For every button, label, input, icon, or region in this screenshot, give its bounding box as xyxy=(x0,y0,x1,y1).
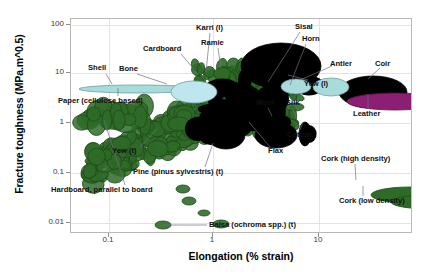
protein-bubble xyxy=(208,87,223,115)
wood-bubble xyxy=(87,114,105,135)
label-bone: Bone xyxy=(119,65,138,73)
wood-bubble xyxy=(176,110,192,123)
wood-bubble xyxy=(242,107,255,117)
wood-bubble xyxy=(220,86,232,100)
wood-bubble xyxy=(182,125,191,132)
y-tick-label-4: 0.01 xyxy=(34,218,64,226)
wood-bubble xyxy=(114,116,139,133)
wood-bubble xyxy=(162,114,175,134)
wood-bubble-cloud xyxy=(73,57,306,229)
hardboard-bubble-b xyxy=(113,110,125,130)
wood-bubble xyxy=(236,75,253,93)
wood-bubble xyxy=(203,69,211,80)
protein-bubble xyxy=(227,86,259,99)
wood-bubble xyxy=(234,95,249,102)
wood-bubble xyxy=(244,96,257,117)
wood-bubble xyxy=(221,94,240,106)
wood-bubble xyxy=(201,128,213,137)
label-wool: Wool xyxy=(256,99,274,107)
wood-bubble xyxy=(115,160,131,169)
shell-bubble xyxy=(79,85,197,93)
wood-bubble xyxy=(228,87,250,105)
wood-bubble xyxy=(264,65,281,72)
wood-bubble xyxy=(200,99,224,120)
wood-bubble xyxy=(239,110,254,129)
wood-bubble xyxy=(176,100,191,114)
wood-bubble xyxy=(236,76,258,96)
wood-bubble xyxy=(278,79,294,91)
wood-bubble xyxy=(218,103,224,115)
label-karri: Karri (l) xyxy=(196,24,223,32)
label-pine: Pine (pinus sylvestris) (t) xyxy=(133,168,223,176)
wood-bubble xyxy=(159,146,179,156)
wood-bubble xyxy=(243,70,256,81)
wood-bubble xyxy=(178,131,195,142)
wood-bubble xyxy=(158,142,177,161)
wood-bubble xyxy=(272,116,288,131)
wood-bubble xyxy=(288,105,297,122)
wood-bubble xyxy=(203,99,212,106)
wood-bubble xyxy=(259,59,268,70)
wood-bubble xyxy=(77,112,99,130)
wood-bubble xyxy=(244,116,258,127)
wood-bubble xyxy=(202,115,227,138)
wood-bubble xyxy=(217,98,235,105)
label-flax: Flax xyxy=(268,147,283,155)
wood-bubble xyxy=(223,83,245,98)
bone-bubble xyxy=(171,81,217,103)
wood-bubble xyxy=(163,109,189,122)
wood-bubble xyxy=(269,74,280,84)
protein-bubble xyxy=(233,100,243,125)
wood-bubble xyxy=(155,116,172,126)
label-silk: Silk xyxy=(286,99,300,107)
wood-bubble xyxy=(200,110,218,130)
protein-bubble-large xyxy=(199,104,243,134)
wood-bubble xyxy=(176,139,188,151)
wood-bubble xyxy=(184,132,194,144)
wood-bubble xyxy=(109,103,128,125)
y-tick-label-1: 10 xyxy=(34,68,64,76)
wood-bubble xyxy=(227,58,241,73)
wood-bubble xyxy=(282,109,296,119)
wood-bubble xyxy=(228,78,253,100)
wood-bubble xyxy=(193,94,210,113)
wood-bubble xyxy=(241,104,257,120)
wood-bubble xyxy=(177,119,190,129)
wood-bubble xyxy=(275,82,293,98)
wood-bubble xyxy=(215,84,234,102)
wood-bubble xyxy=(219,103,235,114)
protein-bubble xyxy=(263,60,285,91)
wood-bubble xyxy=(153,137,168,152)
x-axis-title: Elongation (% strain) xyxy=(70,250,412,262)
wood-bubble xyxy=(239,106,255,117)
ashby-chart: Fracture toughness (MPa.m^0.5) 1001010.1… xyxy=(0,0,436,276)
wood-bubble xyxy=(229,99,238,113)
wood-bubble xyxy=(174,137,192,149)
wood-bubble xyxy=(175,127,190,139)
wood-bubble xyxy=(190,113,201,137)
wood-bubble xyxy=(236,98,253,116)
wood-bubble xyxy=(241,103,251,118)
wood-bubble xyxy=(202,108,221,124)
wood-bubble-tail-1 xyxy=(182,197,196,205)
wood-bubble xyxy=(174,105,195,123)
x-tick-label-1: 1 xyxy=(192,236,232,244)
wood-bubble xyxy=(288,67,305,83)
label-coir: Coir xyxy=(375,60,390,68)
wood-bubble xyxy=(176,102,193,122)
wood-bubble xyxy=(200,94,212,112)
wood-bubble xyxy=(94,152,105,171)
label-cardboard: Cardboard xyxy=(143,45,181,53)
wood-bubble xyxy=(89,168,110,183)
wood-bubble xyxy=(179,113,194,128)
wood-bubble xyxy=(151,144,168,161)
wood-bubble xyxy=(81,161,98,180)
wood-bubble xyxy=(203,85,219,98)
wood-bubble xyxy=(185,91,199,108)
wood-bubble xyxy=(182,101,202,120)
wood-bubble xyxy=(249,76,271,95)
wood-bubble xyxy=(219,67,237,83)
wood-bubble xyxy=(140,129,157,141)
wood-bubble xyxy=(94,157,110,170)
wood-bubble xyxy=(203,127,216,136)
